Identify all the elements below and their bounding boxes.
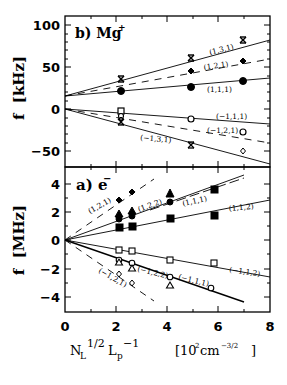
- filled-square-icon: [116, 224, 123, 231]
- filled-circle-icon: [188, 84, 195, 91]
- svg-text:−2: −2: [40, 262, 60, 277]
- svg-text:6: 6: [213, 319, 222, 334]
- svg-text:L: L: [108, 343, 117, 358]
- svg-text:(−1,2,1): (−1,2,1): [207, 126, 238, 135]
- open-circle-icon: [240, 129, 246, 135]
- filled-diamond-icon: [116, 197, 122, 203]
- open-triangle-icon: [167, 282, 174, 288]
- top-markers: [118, 37, 247, 154]
- filled-circle-icon: [240, 78, 247, 85]
- svg-text:(1,2,1): (1,2,1): [203, 60, 229, 72]
- open-circle-icon: [188, 116, 194, 122]
- svg-text:4: 4: [162, 319, 171, 334]
- svg-text:(−1,2,1): (−1,2,1): [97, 266, 129, 289]
- svg-text:2: 2: [51, 205, 60, 220]
- svg-text:b) Mg: b) Mg: [75, 25, 122, 41]
- svg-text:−3/2: −3/2: [221, 342, 238, 350]
- svg-text:[10: [10: [175, 343, 197, 358]
- svg-text:4: 4: [51, 177, 60, 192]
- open-square-icon: [129, 248, 135, 254]
- open-triangle-icon: [129, 265, 136, 271]
- svg-text:50: 50: [42, 60, 60, 75]
- bottom-ytick-labels: 4 2 0 −2 −4: [40, 177, 60, 305]
- filled-diamond-icon: [129, 189, 135, 195]
- top-ylabel: f [kHz]: [10, 56, 28, 120]
- open-diamond-icon: [241, 148, 246, 154]
- svg-text:(1,3,1): (1,3,1): [208, 42, 234, 57]
- top-fit-lines: [65, 40, 270, 164]
- svg-text:cm: cm: [200, 343, 220, 358]
- x-marker-icon: [188, 55, 194, 61]
- open-square-icon: [167, 257, 173, 263]
- svg-text:8: 8: [265, 319, 274, 334]
- filled-triangle-icon: [166, 189, 174, 197]
- open-square-icon: [211, 260, 217, 266]
- bottom-ylabel: f [MHz]: [10, 205, 28, 275]
- figure: 100 50 0 −50 4 2 0 −2 −4 0 2 4 6 8 f [kH…: [0, 0, 287, 385]
- open-square-icon: [116, 247, 122, 253]
- svg-text:0: 0: [51, 233, 60, 248]
- svg-text:−50: −50: [31, 144, 60, 159]
- filled-circle-icon: [129, 213, 135, 219]
- svg-text:+: +: [118, 23, 126, 33]
- svg-text:(−1,3,1): (−1,3,1): [140, 133, 172, 145]
- filled-square-icon: [129, 223, 136, 230]
- svg-text:(1,1,1): (1,1,1): [207, 85, 232, 94]
- svg-text:2: 2: [195, 342, 199, 350]
- svg-text:−1: −1: [123, 337, 139, 350]
- svg-text:(−1,1,1): (−1,1,1): [178, 272, 211, 288]
- xtick-labels: 0 2 4 6 8: [60, 319, 274, 334]
- svg-text:(−1,2,2): (−1,2,2): [137, 264, 170, 280]
- svg-text:1/2: 1/2: [87, 337, 105, 350]
- bottom-panel-label: a) e −: [76, 173, 111, 194]
- svg-text:0: 0: [60, 319, 69, 334]
- top-panel-label: b) Mg +: [75, 23, 126, 41]
- open-circle-icon: [208, 285, 214, 291]
- svg-text:(1,2,1): (1,2,1): [87, 195, 113, 215]
- svg-text:100: 100: [33, 18, 60, 33]
- filled-square-icon: [211, 212, 218, 219]
- svg-text:(1,1,2): (1,1,2): [228, 202, 254, 213]
- filled-square-icon: [167, 215, 174, 222]
- x-axis-title: N L 1/2 L p −1 [10 2 cm −3/2 ]: [70, 337, 256, 361]
- top-ytick-labels: 100 50 0 −50: [31, 18, 60, 159]
- svg-text:−4: −4: [40, 290, 60, 305]
- filled-circle-icon: [116, 216, 122, 222]
- filled-circle-icon: [118, 88, 125, 95]
- svg-text:(−1,1,1): (−1,1,1): [216, 112, 247, 121]
- svg-text:(−1,1,2): (−1,1,2): [229, 265, 261, 278]
- svg-text:]: ]: [251, 343, 256, 358]
- x-marker-icon: [240, 37, 246, 43]
- filled-square-icon: [211, 186, 218, 193]
- svg-text:L: L: [80, 351, 86, 361]
- svg-text:p: p: [117, 351, 123, 361]
- top-line-labels: (1,3,1) (1,2,1) (1,1,1) (−1,1,1) (−1,2,1…: [140, 42, 247, 145]
- svg-text:2: 2: [111, 319, 120, 334]
- svg-text:0: 0: [51, 102, 60, 117]
- bottom-line-labels: (1,2,1) (1,2,2) (1,1,1) (1,1,2) (−1,1,2)…: [87, 194, 261, 289]
- svg-text:(1,2,2): (1,2,2): [137, 197, 164, 214]
- filled-circle-icon: [167, 199, 173, 205]
- svg-text:−: −: [103, 173, 111, 184]
